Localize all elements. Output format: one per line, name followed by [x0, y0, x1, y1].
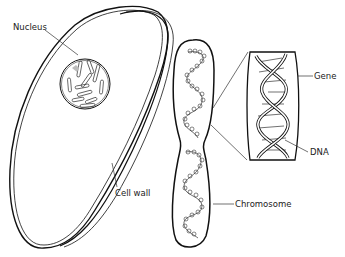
chromatin-coil [183, 49, 206, 238]
nucleus-callout: Nucleus [13, 22, 78, 55]
nucleus-label: Nucleus [13, 22, 47, 32]
dna-magnified-box [247, 52, 299, 160]
dna-callout: DNA [285, 140, 329, 157]
magnification-lines [211, 52, 248, 160]
nucleus [60, 59, 110, 109]
cell-wall-label: Cell wall [115, 188, 150, 198]
dna-label: DNA [310, 147, 329, 157]
dna-double-helix [256, 54, 288, 158]
cell [10, 6, 174, 248]
chromosome-label: Chromosome [235, 199, 291, 209]
gene-callout: Gene [298, 71, 336, 81]
chromosome [172, 40, 214, 247]
gene-label: Gene [314, 71, 336, 81]
chromosome-callout: Chromosome [213, 199, 291, 209]
nucleus-chromosomes [67, 60, 103, 108]
diagram-canvas: Nucleus Cell wall [0, 0, 345, 257]
